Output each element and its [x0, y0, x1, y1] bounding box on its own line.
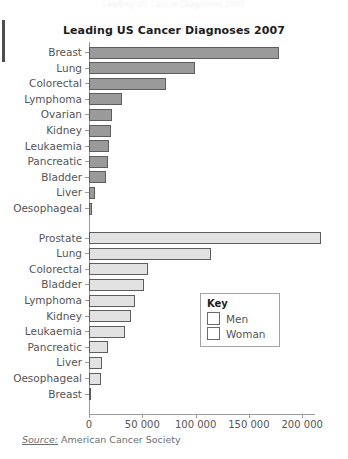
y-axis-label: Colorectal	[29, 261, 82, 277]
bar-row: Liver	[89, 185, 334, 201]
bar-row: Lymphoma	[89, 92, 334, 108]
x-axis-tick	[196, 414, 197, 418]
bar-row: Liver	[89, 355, 334, 371]
y-axis-label: Kidney	[46, 308, 82, 324]
bar-row: Breast	[89, 45, 334, 61]
x-axis-tick-label: 200 000	[282, 419, 323, 430]
bar-men-pancreatic	[89, 341, 108, 353]
legend-swatch-woman	[207, 327, 220, 340]
y-axis-label: Pancreatic	[27, 339, 82, 355]
x-axis-tick-label: 150 000	[228, 419, 269, 430]
y-axis-label: Ovarian	[41, 106, 82, 122]
bar-woman-pancreatic	[89, 156, 108, 168]
y-axis-label: Bladder	[41, 276, 82, 292]
bar-row: Colorectal	[89, 262, 334, 278]
legend-swatch-men	[207, 312, 220, 325]
bar-row: Prostate	[89, 231, 334, 247]
source-text: American Cancer Society	[58, 434, 181, 445]
x-axis-tick-label: 100 000	[175, 419, 216, 430]
x-axis-tick	[89, 414, 90, 418]
y-axis-label: Oesophageal	[13, 200, 82, 216]
x-axis-tick	[302, 414, 303, 418]
bar-men-prostate	[89, 232, 321, 244]
bar-row: Bladder	[89, 170, 334, 186]
bar-men-lymphoma	[89, 295, 135, 307]
bar-woman-leukaemia	[89, 140, 109, 152]
bar-men-kidney	[89, 310, 131, 322]
bar-row: Leukaemia	[89, 139, 334, 155]
y-axis-label: Colorectal	[29, 75, 82, 91]
plot-area: BreastLungColorectalLymphomaOvarianKidne…	[89, 42, 334, 414]
bar-men-colorectal	[89, 263, 148, 275]
x-axis-tick-label: 50 000	[125, 419, 160, 430]
y-axis-label: Lymphoma	[24, 91, 82, 107]
y-axis-label: Breast	[48, 386, 82, 402]
bar-woman-kidney	[89, 125, 111, 137]
x-axis-line	[89, 414, 315, 415]
y-axis-label: Lung	[56, 245, 82, 261]
bar-row: Lung	[89, 61, 334, 77]
y-axis-label: Bladder	[41, 169, 82, 185]
bar-row: Ovarian	[89, 107, 334, 123]
y-axis-label: Liver	[56, 184, 82, 200]
source-label: Source:	[22, 434, 58, 445]
y-axis-label: Leukaemia	[25, 323, 82, 339]
y-axis-label: Pancreatic	[27, 153, 82, 169]
x-axis-tick	[249, 414, 250, 418]
bar-men-breast	[89, 388, 91, 400]
y-axis-label: Kidney	[46, 122, 82, 138]
bar-woman-breast	[89, 47, 279, 59]
bar-row: Colorectal	[89, 76, 334, 92]
bar-men-bladder	[89, 279, 144, 291]
legend-label-men: Men	[226, 313, 248, 325]
bar-woman-ovarian	[89, 109, 112, 121]
bar-row: Oesophageal	[89, 201, 334, 217]
y-axis-label: Oesophageal	[13, 370, 82, 386]
y-axis-label: Liver	[56, 354, 82, 370]
y-axis-label: Lung	[56, 60, 82, 76]
x-axis-tick-label: 0	[86, 419, 92, 430]
bar-row: Lung	[89, 246, 334, 262]
chart-legend: Key Men Woman	[200, 293, 280, 347]
y-axis-label: Lymphoma	[24, 292, 82, 308]
bar-row: Oesophageal	[89, 371, 334, 387]
bar-woman-oesophageal	[89, 203, 92, 215]
bar-men-liver	[89, 357, 102, 369]
source-caption: Source: American Cancer Society	[22, 434, 181, 445]
legend-title: Key	[207, 298, 273, 309]
chart-title: Leading US Cancer Diagnoses 2007	[0, 24, 348, 37]
x-axis-tick	[142, 414, 143, 418]
legend-item-men: Men	[207, 312, 273, 325]
legend-label-woman: Woman	[226, 328, 266, 340]
bar-men-oesophageal	[89, 373, 101, 385]
y-axis-label: Prostate	[39, 230, 82, 246]
bar-row: Pancreatic	[89, 154, 334, 170]
chart-figure: Leading US Cancer Diagnoses 2007 BreastL…	[0, 0, 348, 459]
y-axis-label: Leukaemia	[25, 138, 82, 154]
bar-woman-lymphoma	[89, 93, 122, 105]
bar-row: Kidney	[89, 123, 334, 139]
bar-woman-lung	[89, 62, 195, 74]
bar-woman-colorectal	[89, 78, 166, 90]
bar-row: Bladder	[89, 277, 334, 293]
bar-row: Breast	[89, 387, 334, 403]
y-axis-label: Breast	[48, 44, 82, 60]
bar-men-leukaemia	[89, 326, 125, 338]
bar-woman-liver	[89, 187, 95, 199]
legend-item-woman: Woman	[207, 327, 273, 340]
bar-woman-bladder	[89, 171, 106, 183]
bar-men-lung	[89, 248, 211, 260]
